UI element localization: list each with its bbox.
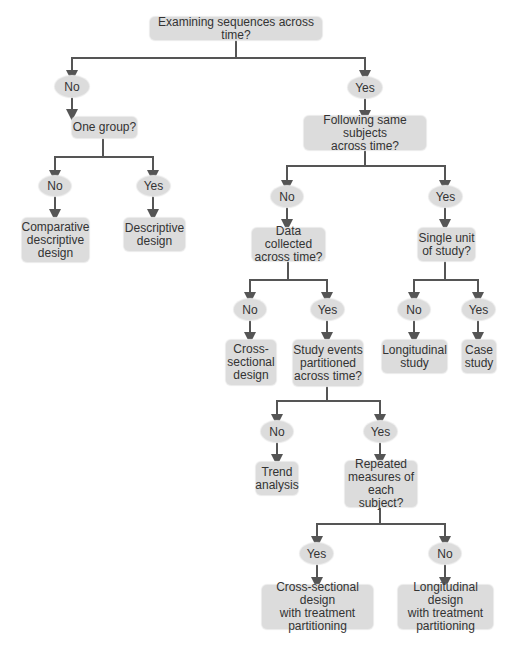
- descriptive-design-box: Descriptive design: [124, 218, 185, 251]
- answer-no-oval: No: [261, 421, 293, 442]
- following-same-subjects-box: Following same subjects across time?: [304, 116, 426, 150]
- answer-no-oval: No: [429, 543, 461, 564]
- answer-yes-oval: Yes: [137, 176, 170, 196]
- cross-sectional-design-box: Cross- sectional design: [226, 340, 276, 385]
- answer-yes-oval: Yes: [429, 186, 462, 207]
- answer-no-oval: No: [39, 176, 71, 196]
- answer-yes-oval: Yes: [348, 77, 382, 98]
- trend-analysis-box: Trend analysis: [256, 462, 298, 495]
- root-question-box: Examining sequences across time?: [150, 17, 322, 40]
- repeated-measures-box: Repeated measures of each subject?: [345, 461, 417, 507]
- one-group-box: One group?: [72, 117, 137, 138]
- single-unit-box: Single unit of study?: [418, 228, 475, 261]
- cross-sectional-treatment-box: Cross-sectional design with treatment pa…: [262, 585, 373, 629]
- answer-yes-oval: Yes: [462, 299, 495, 320]
- case-study-box: Case study: [462, 340, 496, 373]
- answer-no-oval: No: [271, 186, 303, 207]
- answer-no-oval: No: [398, 299, 430, 320]
- study-events-partitioned-box: Study events partitioned across time?: [293, 340, 363, 386]
- answer-yes-oval: Yes: [311, 299, 344, 320]
- answer-no-oval: No: [55, 76, 89, 97]
- longitudinal-treatment-box: Longitudinal design with treatment parti…: [398, 585, 493, 629]
- answer-yes-oval: Yes: [364, 421, 397, 442]
- comparative-descriptive-design-box: Comparative descriptive design: [22, 218, 89, 262]
- answer-yes-oval: Yes: [300, 543, 333, 564]
- data-collected-box: Data collected across time?: [252, 228, 325, 261]
- answer-no-oval: No: [234, 299, 266, 320]
- longitudinal-study-box: Longitudinal study: [382, 340, 447, 373]
